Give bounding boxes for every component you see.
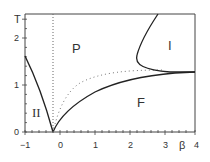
y-tick-0: 0 [14,127,19,137]
x-axis-label: β [179,139,185,151]
x-tick-1: 1 [93,140,98,150]
p-f-boundary-curve [53,72,195,132]
x-tick-4: 4 [194,140,199,150]
phase-diagram-svg: 0 1 2 T −1 0 1 2 3 β 4 P I F II [0,0,210,162]
phase-diagram: 0 1 2 T −1 0 1 2 3 β 4 P I F II [0,0,210,162]
x-tick-3: 3 [163,140,168,150]
y-tick-2: 2 [14,33,19,43]
x-tick-0: 0 [58,140,63,150]
x-tick-neg1: −1 [20,140,30,150]
region-label-p: P [72,41,81,56]
x-tick-2: 2 [128,140,133,150]
region-label-ii: II [32,105,41,120]
y-axis-label: T [14,13,21,25]
region-label-i: I [168,38,172,53]
i-boundary-curve [137,14,195,72]
dotted-crossover-curve [53,70,162,132]
p-ii-boundary-curve [25,56,53,132]
region-label-f: F [137,95,145,110]
y-tick-1: 1 [14,80,19,90]
